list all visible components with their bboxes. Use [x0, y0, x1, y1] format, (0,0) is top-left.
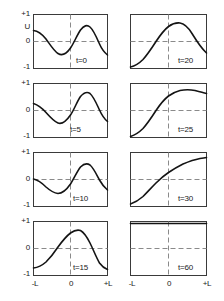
panel-t60 — [131, 222, 207, 276]
y-tick-zero-row2: 0 — [6, 105, 30, 114]
y-axis-name: U — [6, 22, 30, 31]
y-tick-minus1-row2: -1 — [6, 131, 30, 140]
x-tick-minusL-left: -L — [24, 279, 46, 288]
y-tick-minus1-row4: -1 — [6, 269, 30, 278]
panel-label-t10: t=10 — [73, 194, 88, 203]
x-tick-zero-right: 0 — [158, 279, 180, 288]
panel-label-t15: t=15 — [73, 263, 88, 272]
panel-t10 — [34, 153, 108, 207]
y-tick-zero-row4: 0 — [6, 243, 30, 252]
x-tick-minusL-right: -L — [121, 279, 143, 288]
panel-label-t60: t=60 — [178, 263, 193, 272]
y-tick-plus1-row1: +1 — [6, 9, 30, 18]
panel-t0 — [34, 15, 108, 69]
panel-t15 — [34, 222, 108, 276]
multi-panel-plot — [0, 0, 224, 301]
panel-t20 — [131, 15, 207, 69]
panel-t30 — [131, 153, 207, 207]
y-tick-zero-row3: 0 — [6, 174, 30, 183]
figure-container: +1 U 0 -1 +1 0 -1 +1 0 -1 +1 0 -1 t=0 t=… — [0, 0, 224, 301]
y-tick-zero-row1: 0 — [6, 36, 30, 45]
panel-label-t20: t=20 — [178, 56, 193, 65]
y-tick-minus1-row3: -1 — [6, 200, 30, 209]
x-tick-plusL-right: +L — [196, 279, 218, 288]
y-tick-plus1-row4: +1 — [6, 216, 30, 225]
x-tick-plusL-left: +L — [97, 279, 119, 288]
y-tick-plus1-row2: +1 — [6, 78, 30, 87]
x-tick-zero-left: 0 — [60, 279, 82, 288]
panel-label-t30: t=30 — [178, 194, 193, 203]
panel-label-t0: t=0 — [76, 56, 87, 65]
panel-t25 — [131, 84, 207, 138]
panel-label-t25: t=25 — [178, 125, 193, 134]
y-tick-plus1-row3: +1 — [6, 147, 30, 156]
y-tick-minus1-row1: -1 — [6, 62, 30, 71]
panel-label-t5: t=5 — [70, 125, 81, 134]
